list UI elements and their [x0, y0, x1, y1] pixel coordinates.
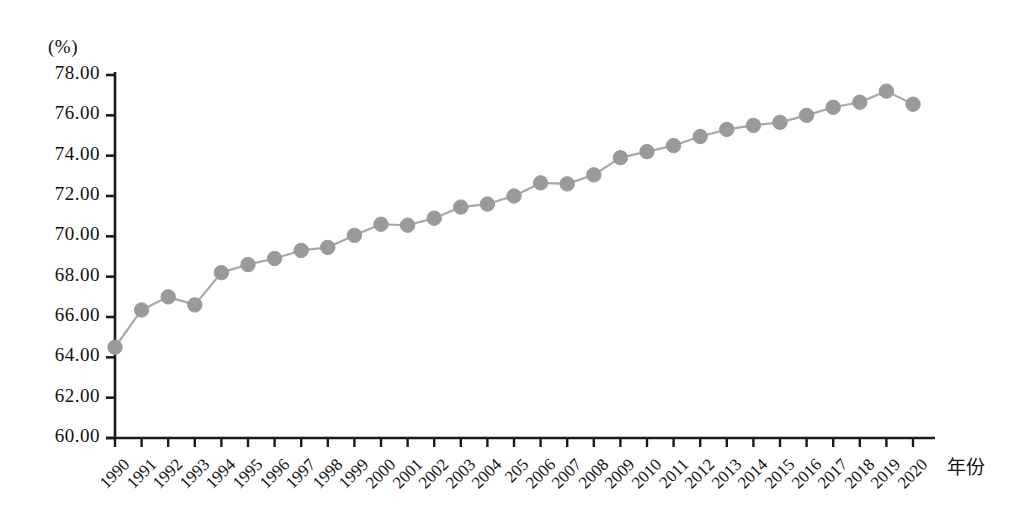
- data-point: [746, 118, 760, 132]
- data-point: [693, 129, 707, 143]
- y-axis-tick-label: 62.00: [28, 385, 100, 407]
- data-line: [115, 91, 913, 347]
- axes-group: [106, 72, 935, 447]
- data-point: [773, 115, 787, 129]
- data-point: [267, 251, 281, 265]
- data-point: [188, 298, 202, 312]
- y-axis-tick-label: 76.00: [28, 102, 100, 124]
- data-point: [134, 303, 148, 317]
- y-axis-tick-label: 66.00: [28, 304, 100, 326]
- data-point: [161, 290, 175, 304]
- data-point: [853, 95, 867, 109]
- data-point: [613, 150, 627, 164]
- line-chart-plot: [0, 0, 1013, 522]
- data-point: [321, 240, 335, 254]
- data-point: [560, 177, 574, 191]
- y-axis-tick-label: 68.00: [28, 264, 100, 286]
- data-point: [826, 100, 840, 114]
- data-point: [507, 189, 521, 203]
- data-point: [720, 122, 734, 136]
- data-point: [906, 97, 920, 111]
- data-point: [294, 243, 308, 257]
- data-point: [241, 257, 255, 271]
- data-point: [427, 211, 441, 225]
- data-point: [666, 138, 680, 152]
- chart-container: (%) 年份 60.0062.0064.0066.0068.0070.0072.…: [0, 0, 1013, 522]
- data-point: [454, 200, 468, 214]
- data-point: [400, 218, 414, 232]
- y-axis-tick-label: 78.00: [28, 62, 100, 84]
- data-point: [587, 168, 601, 182]
- data-point: [214, 265, 228, 279]
- y-axis-tick-label: 64.00: [28, 344, 100, 366]
- y-axis-tick-label: 74.00: [28, 143, 100, 165]
- data-point: [374, 217, 388, 231]
- y-axis-tick-label: 72.00: [28, 183, 100, 205]
- data-point: [347, 228, 361, 242]
- data-point: [799, 108, 813, 122]
- data-point: [480, 197, 494, 211]
- data-point: [108, 340, 122, 354]
- data-point: [640, 144, 654, 158]
- data-point: [879, 84, 893, 98]
- y-axis-tick-label: 60.00: [28, 425, 100, 447]
- data-point: [533, 176, 547, 190]
- data-series-group: [108, 84, 920, 355]
- y-axis-tick-label: 70.00: [28, 223, 100, 245]
